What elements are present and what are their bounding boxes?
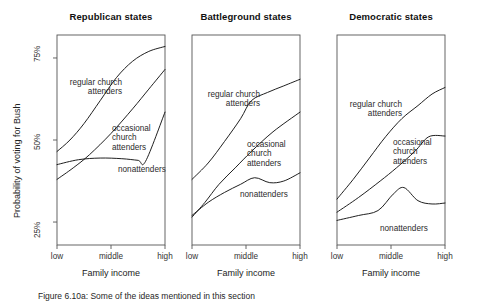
series-curve	[337, 135, 445, 212]
series-curve	[57, 112, 165, 165]
series-curve	[57, 46, 165, 151]
series-curve	[337, 88, 445, 200]
series-curve	[57, 69, 165, 179]
series-curve	[192, 112, 300, 217]
series-curve	[192, 173, 300, 216]
series-curve	[192, 79, 300, 179]
series-curve	[337, 187, 445, 220]
